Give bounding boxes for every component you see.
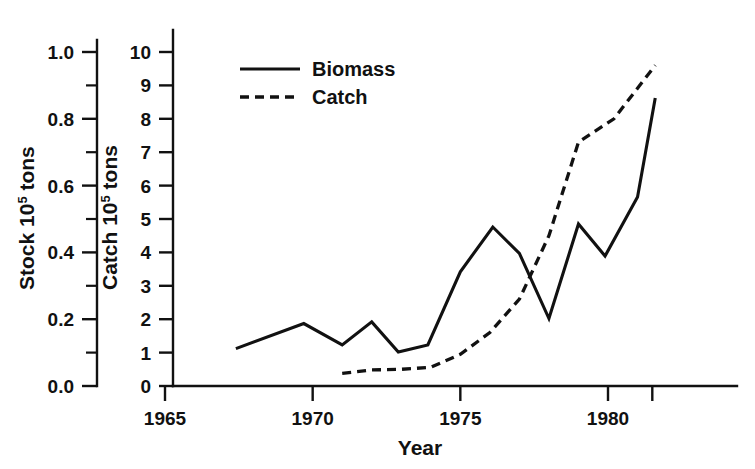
catch-tick-label: 2	[140, 309, 151, 330]
chart-canvas: 0.00.20.40.60.81.0 Stock 105 tons 012345…	[0, 0, 755, 469]
legend-label-biomass: Biomass	[312, 58, 395, 80]
series-line-biomass	[236, 98, 655, 352]
stock-tick-label: 0.4	[48, 242, 75, 263]
x-tick-label: 1980	[587, 408, 629, 429]
x-tick-label: 1970	[292, 408, 334, 429]
x-tick-label: 1965	[144, 408, 187, 429]
stock-minor-ticks	[86, 85, 97, 352]
stock-tick-label: 1.0	[48, 42, 74, 63]
stock-axis-title: Stock 105 tons	[15, 146, 38, 290]
x-axis: 1965197019751980 Year	[144, 386, 737, 459]
catch-tick-label: 6	[140, 176, 151, 197]
catch-tick-label: 3	[140, 276, 151, 297]
series-group	[236, 65, 655, 373]
stock-axis: 0.00.20.40.60.81.0 Stock 105 tons	[15, 40, 97, 397]
x-tick-labels: 1965197019751980	[144, 408, 629, 429]
catch-tick-label: 8	[140, 109, 151, 130]
catch-tick-label: 10	[130, 42, 151, 63]
chart-figure: 0.00.20.40.60.81.0 Stock 105 tons 012345…	[0, 0, 755, 469]
legend-label-catch: Catch	[312, 86, 368, 108]
catch-tick-label: 9	[140, 75, 151, 96]
series-line-catch	[342, 65, 655, 373]
catch-tick-label: 0	[140, 376, 151, 397]
catch-tick-labels: 012345678910	[130, 42, 152, 397]
catch-axis-title: Catch 105 tons	[98, 145, 121, 290]
stock-tick-label: 0.2	[48, 309, 74, 330]
x-tick-label: 1975	[439, 408, 482, 429]
stock-tick-label: 0.6	[48, 176, 74, 197]
catch-major-ticks	[159, 52, 173, 386]
chart-legend: Biomass Catch	[240, 58, 395, 108]
x-major-ticks	[165, 386, 652, 401]
x-axis-title: Year	[398, 436, 442, 459]
catch-tick-label: 5	[140, 209, 151, 230]
catch-tick-label: 1	[140, 343, 151, 364]
catch-tick-label: 7	[140, 142, 151, 163]
catch-axis: 012345678910 Catch 105 tons	[98, 30, 173, 397]
stock-tick-label: 0.0	[48, 376, 74, 397]
stock-tick-labels: 0.00.20.40.60.81.0	[48, 42, 75, 397]
stock-tick-label: 0.8	[48, 109, 74, 130]
catch-tick-label: 4	[140, 242, 151, 263]
